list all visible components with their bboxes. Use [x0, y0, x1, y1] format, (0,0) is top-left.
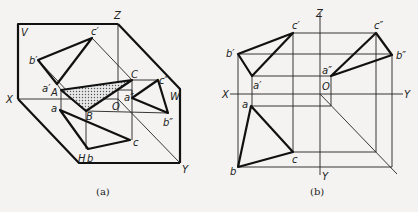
label-o: O [112, 101, 120, 112]
spatial-triangle-abc [61, 80, 132, 111]
label-v: V [21, 27, 29, 38]
v-projection-triangle [38, 38, 92, 84]
label-a-prime: a′ [253, 80, 262, 91]
figure-b: Z X Y Y O c′ b′ a′ c″ b″ a″ a b c (b) [221, 8, 411, 197]
label-z: Z [113, 10, 122, 21]
label-b: b [87, 153, 93, 164]
h-projection-triangle [60, 110, 130, 149]
top-view-triangle [238, 106, 293, 167]
figure-a: V Z X W H Y O b′ c′ a′ A C B c″ b″ a″ a … [5, 10, 189, 197]
label-x: X [5, 94, 14, 105]
label-C: C [131, 69, 138, 80]
label-w: W [170, 91, 181, 102]
label-b: b [230, 166, 236, 177]
projection-diagrams: V Z X W H Y O b′ c′ a′ A C B c″ b″ a″ a … [0, 0, 418, 212]
label-B: B [86, 111, 93, 122]
label-a: a [242, 99, 248, 110]
front-view-triangle [238, 33, 293, 76]
caption-b: (b) [310, 186, 324, 197]
label-c-dprime: c″ [159, 75, 168, 86]
label-c: c [133, 137, 139, 148]
label-b-dprime: b″ [396, 50, 406, 61]
label-b-prime: b′ [29, 55, 38, 66]
45-degree-line [320, 94, 397, 174]
y-axis [118, 99, 180, 163]
label-c: c [292, 154, 298, 165]
label-h: H [78, 153, 86, 164]
caption-a: (a) [96, 186, 110, 197]
label-a-prime: a′ [42, 83, 51, 94]
label-c-dprime: c″ [374, 20, 383, 31]
label-y-bottom: Y [322, 171, 329, 182]
label-y: Y [182, 164, 189, 175]
label-c-prime: c′ [91, 26, 99, 37]
label-y-right: Y [404, 89, 411, 100]
label-o: O [322, 81, 330, 92]
label-x: X [221, 89, 230, 100]
label-a: a [51, 103, 57, 114]
label-z: Z [315, 8, 324, 19]
label-c-prime: c′ [292, 20, 300, 31]
projector-lines [238, 33, 392, 167]
label-a-dprime: a″ [124, 92, 134, 103]
label-b-dprime: b″ [163, 117, 173, 128]
side-view-triangle [331, 33, 392, 76]
label-b-prime: b′ [226, 48, 235, 59]
label-A: A [50, 87, 58, 98]
label-a-dprime: a″ [322, 65, 332, 76]
